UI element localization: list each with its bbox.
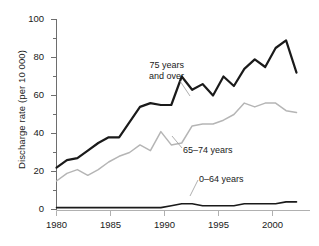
series-annotation-0-64-years: 0–64 years [199, 174, 244, 185]
x-tick-label-1990: 1990 [145, 219, 185, 230]
y-tick-label-80: 80 [18, 51, 44, 62]
x-axis-ticks [57, 211, 273, 217]
y-tick-label-0: 0 [18, 203, 44, 214]
y-tick-label-100: 100 [18, 13, 44, 24]
y-tick-label-20: 20 [18, 165, 44, 176]
series-line-65-74-years [57, 103, 297, 181]
leader-line-65-74-years [172, 136, 182, 148]
y-tick-label-40: 40 [18, 127, 44, 138]
x-tick-label-1980: 1980 [37, 219, 77, 230]
series-annotation-65-74-years: 65–74 years [183, 145, 233, 156]
series-annotation-75-years-and-over: 75 years and over [108, 60, 184, 82]
x-tick-label-2000: 2000 [253, 219, 293, 230]
x-tick-label-1985: 1985 [91, 219, 131, 230]
y-tick-label-60: 60 [18, 89, 44, 100]
series-line-0-64-years [57, 202, 297, 208]
series-annotation-75-line2: and over [108, 71, 184, 82]
leader-line-0-64-years [190, 180, 198, 196]
series-annotation-75-line1: 75 years [149, 60, 184, 70]
x-tick-label-1995: 1995 [199, 219, 239, 230]
chart-figure: Discharge rate (per 10 000) 100 80 60 40… [0, 0, 319, 246]
leader-line-75-years [180, 81, 190, 96]
line-chart-plot [0, 0, 319, 246]
